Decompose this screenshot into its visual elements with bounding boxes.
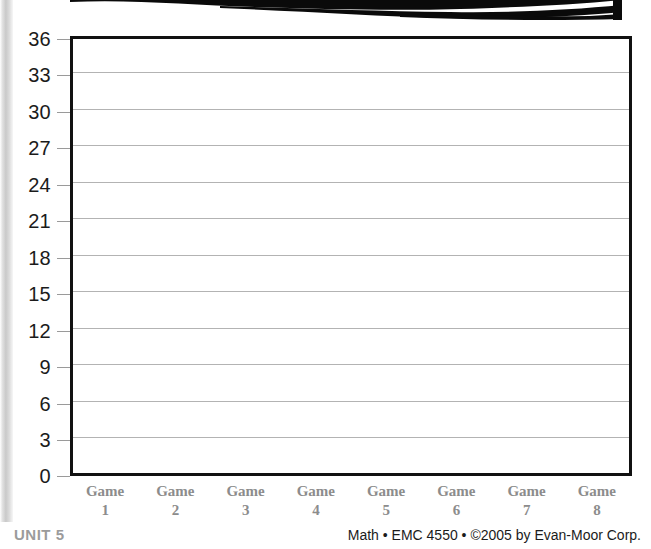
gridline-21 xyxy=(73,218,629,219)
worksheet-page: 36 33 30 27 24 21 18 15 12 9 6 3 0 Game1… xyxy=(0,0,651,549)
x-category-game-6: Game6 xyxy=(421,482,491,522)
x-category-name-5: Game xyxy=(367,483,405,499)
y-tick-label-27: 27 xyxy=(28,141,51,155)
y-tick-27: 27 xyxy=(28,141,70,155)
gridline-18 xyxy=(73,255,629,256)
gridline-12 xyxy=(73,328,629,329)
gridline-3 xyxy=(73,437,629,438)
y-tick-label-21: 21 xyxy=(28,214,51,228)
y-tick-label-0: 0 xyxy=(40,469,51,483)
y-tick-24: 24 xyxy=(28,178,70,192)
y-tick-label-3: 3 xyxy=(40,433,51,447)
y-tick-mark-24 xyxy=(57,185,70,186)
x-category-number-7: 7 xyxy=(492,501,562,520)
y-tick-label-33: 33 xyxy=(28,68,51,82)
gridline-9 xyxy=(73,364,629,365)
y-tick-0: 0 xyxy=(40,469,70,483)
x-category-game-1: Game1 xyxy=(70,482,140,522)
x-category-number-1: 1 xyxy=(70,501,140,520)
graph-plot-area[interactable] xyxy=(70,36,632,476)
gridline-33 xyxy=(73,72,629,73)
y-tick-label-15: 15 xyxy=(28,287,51,301)
scan-artifact-smudge xyxy=(70,0,622,22)
gridline-27 xyxy=(73,145,629,146)
y-tick-18: 18 xyxy=(28,251,70,265)
y-tick-mark-6 xyxy=(57,404,70,405)
x-category-name-7: Game xyxy=(507,483,545,499)
x-category-game-7: Game7 xyxy=(492,482,562,522)
y-tick-mark-33 xyxy=(57,75,70,76)
x-category-number-4: 4 xyxy=(281,501,351,520)
y-tick-mark-12 xyxy=(57,331,70,332)
y-tick-mark-21 xyxy=(57,221,70,222)
unit-label: UNIT 5 xyxy=(14,526,65,543)
x-category-number-5: 5 xyxy=(351,501,421,520)
y-tick-mark-18 xyxy=(57,258,70,259)
x-category-number-3: 3 xyxy=(211,501,281,520)
x-category-number-6: 6 xyxy=(421,501,491,520)
y-axis: 36 33 30 27 24 21 18 15 12 9 6 3 0 xyxy=(0,36,70,480)
gridline-15 xyxy=(73,291,629,292)
x-category-name-6: Game xyxy=(437,483,475,499)
y-tick-mark-15 xyxy=(57,294,70,295)
gridline-24 xyxy=(73,182,629,183)
y-tick-3: 3 xyxy=(40,433,70,447)
x-category-name-4: Game xyxy=(297,483,335,499)
y-tick-36: 36 xyxy=(28,32,70,46)
page-footer: UNIT 5 Math • EMC 4550 • ©2005 by Evan-M… xyxy=(0,522,651,549)
y-tick-label-24: 24 xyxy=(28,178,51,192)
y-tick-15: 15 xyxy=(28,287,70,301)
x-category-number-2: 2 xyxy=(140,501,210,520)
x-category-name-3: Game xyxy=(226,483,264,499)
y-tick-mark-9 xyxy=(57,367,70,368)
x-axis: Game1 Game2 Game3 Game4 Game5 Game6 Game… xyxy=(70,482,632,522)
x-category-name-8: Game xyxy=(578,483,616,499)
y-tick-6: 6 xyxy=(40,397,70,411)
y-tick-label-30: 30 xyxy=(28,105,51,119)
y-tick-label-18: 18 xyxy=(28,251,51,265)
x-category-game-8: Game8 xyxy=(562,482,632,522)
y-tick-mark-0 xyxy=(57,476,70,477)
gridline-6 xyxy=(73,401,629,402)
y-tick-9: 9 xyxy=(40,360,70,374)
y-tick-label-12: 12 xyxy=(28,324,51,338)
y-tick-label-9: 9 xyxy=(40,360,51,374)
x-category-game-5: Game5 xyxy=(351,482,421,522)
copyright-credit: Math • EMC 4550 • ©2005 by Evan-Moor Cor… xyxy=(348,527,641,543)
y-tick-mark-30 xyxy=(57,112,70,113)
y-tick-mark-36 xyxy=(57,39,70,40)
y-tick-label-6: 6 xyxy=(40,397,51,411)
y-tick-mark-27 xyxy=(57,148,70,149)
y-tick-label-36: 36 xyxy=(28,32,51,46)
x-category-game-3: Game3 xyxy=(211,482,281,522)
x-category-game-2: Game2 xyxy=(140,482,210,522)
x-category-name-1: Game xyxy=(86,483,124,499)
y-tick-mark-3 xyxy=(57,440,70,441)
y-tick-33: 33 xyxy=(28,68,70,82)
y-tick-30: 30 xyxy=(28,105,70,119)
y-tick-12: 12 xyxy=(28,324,70,338)
y-tick-21: 21 xyxy=(28,214,70,228)
gridline-30 xyxy=(73,109,629,110)
x-category-number-8: 8 xyxy=(562,501,632,520)
x-category-game-4: Game4 xyxy=(281,482,351,522)
x-category-name-2: Game xyxy=(156,483,194,499)
